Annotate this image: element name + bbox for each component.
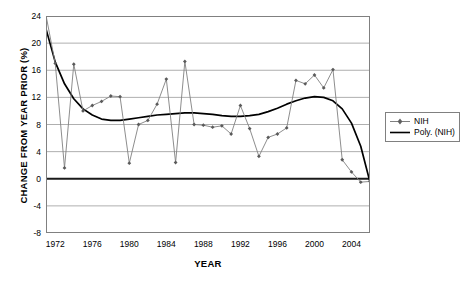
legend-entry-nih[interactable]: NIH [389, 116, 455, 127]
x-tick-label: 1992 [220, 240, 260, 248]
y-tick-label: -4 [9, 202, 41, 210]
y-tick-label: 16 [9, 66, 41, 74]
x-tick-label: 1980 [109, 240, 149, 248]
x-axis-title: YEAR [46, 258, 370, 269]
gridlines [46, 16, 370, 233]
plot-area [46, 16, 370, 233]
x-tick-label: 2004 [331, 240, 371, 248]
series-nih-markers [46, 16, 370, 184]
x-tick-label: 1976 [72, 240, 112, 248]
y-tick-label: 4 [9, 148, 41, 156]
legend-label-nih: NIH [411, 116, 429, 127]
x-tick-label: 2000 [294, 240, 334, 248]
y-tick-label: 0 [9, 175, 41, 183]
chart-figure: CHANGE FROM YEAR PRIOR (%) YEAR 24201612… [0, 0, 465, 283]
legend-key-solid-line [389, 127, 411, 138]
x-tick-label: 1972 [35, 240, 75, 248]
y-tick-label: 12 [9, 93, 41, 101]
y-tick-label: 20 [9, 39, 41, 47]
x-tick-label: 1996 [257, 240, 297, 248]
y-tick-label: 8 [9, 121, 41, 129]
y-tick-label: 24 [9, 12, 41, 20]
legend-key-line-with-diamond-marker [389, 116, 411, 127]
x-tick-label: 1988 [183, 240, 223, 248]
legend-entry-poly-nih[interactable]: Poly. (NIH) [389, 127, 455, 138]
legend-label-poly-nih: Poly. (NIH) [411, 127, 455, 138]
y-tick-label: -8 [9, 229, 41, 237]
chart-canvas [46, 16, 370, 233]
chart-legend[interactable]: NIH Poly. (NIH) [385, 112, 460, 142]
x-tick-label: 1984 [146, 240, 186, 248]
series-poly-nih-line [46, 29, 370, 182]
series-nih-line [46, 16, 370, 182]
